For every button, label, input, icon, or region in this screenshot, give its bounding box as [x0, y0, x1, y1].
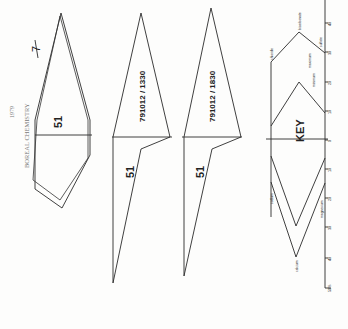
- diagram-791012-1830: 791012 / 1830 51: [182, 8, 242, 276]
- inner-polygon: [33, 16, 88, 200]
- magnesium-label: magnesium: [320, 200, 324, 218]
- anion-max-line: [271, 32, 325, 62]
- stiff-polygon: [184, 8, 241, 276]
- diagram-51-envelope: 51: [33, 13, 92, 208]
- scale-ticks: 40 30 20 10 0 10 20 30 40 50%: [325, 22, 332, 292]
- diagram-label-top: 791012 / 1330: [138, 70, 147, 122]
- cation-min-line: [271, 156, 325, 226]
- figure-stiff-diagrams: BOREAL CHEMISTRY 1979 7 51 791012 / 1330…: [0, 0, 348, 329]
- diagram-label-top: 791012 / 1830: [208, 70, 217, 122]
- tick-label: 10: [328, 168, 332, 172]
- calcium-label: calcium: [295, 260, 299, 272]
- tick-label: 50%: [328, 284, 332, 292]
- tick-label: 30: [328, 226, 332, 230]
- diagram-label-bottom: 51: [194, 166, 206, 178]
- maximum-label: maximum: [308, 53, 312, 68]
- tick-label: 40: [328, 257, 332, 261]
- diagram-51-label: 51: [52, 116, 64, 128]
- key-diagram: KEY chloride bicarbonate sulfate maximum…: [266, 0, 332, 292]
- scanned-page: BOREAL CHEMISTRY 1979 7 51 791012 / 1330…: [0, 0, 348, 329]
- minimum-label: minimum: [312, 73, 316, 87]
- cation-max-line: [271, 182, 325, 257]
- year-label: 1979: [9, 106, 15, 118]
- chloride-label: chloride: [270, 48, 274, 60]
- tick-label: 20: [328, 81, 332, 85]
- tick-label: 10: [328, 110, 332, 114]
- outer-polygon: [35, 13, 90, 208]
- tick-label: 0: [328, 140, 332, 142]
- tick-label: 30: [328, 51, 332, 55]
- running-header: BOREAL CHEMISTRY: [23, 103, 30, 168]
- bicarbonate-label: bicarbonate: [298, 12, 302, 30]
- diagram-label-bottom: 51: [124, 166, 136, 178]
- diagram-791012-1330: 791012 / 1330 51: [112, 13, 172, 283]
- key-title: KEY: [294, 119, 306, 142]
- sodium-label: sodium: [270, 193, 274, 204]
- tick-label: 20: [328, 197, 332, 201]
- sulfate-label: sulfate: [319, 37, 323, 47]
- tick-label: 40: [328, 22, 332, 26]
- stiff-polygon: [113, 13, 170, 283]
